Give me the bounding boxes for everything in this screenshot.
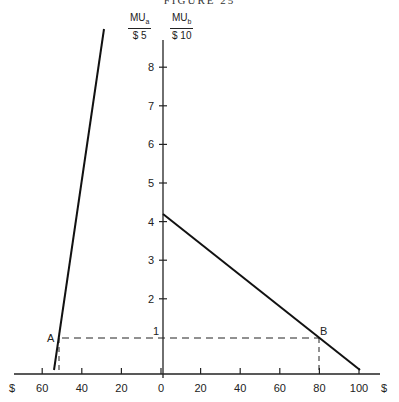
point-a-label: A (47, 332, 55, 344)
x-tick-label: 60 (274, 382, 286, 394)
point-b-label: B (320, 325, 327, 337)
y-tick-label: 2 (148, 293, 154, 305)
x-tick-label: 20 (115, 382, 127, 394)
x-tick-label: 40 (76, 382, 88, 394)
chart-plot: 12345678 604020020406080100 A B $ $ (0, 0, 399, 402)
y-tick-label: 6 (148, 138, 154, 150)
mu-a-line (54, 29, 104, 370)
x-currency-right: $ (381, 382, 387, 394)
x-tick-label: 80 (313, 382, 325, 394)
x-tick-label: 100 (350, 382, 368, 394)
x-currency-left: $ (9, 382, 15, 394)
y-tick-label: 5 (148, 177, 154, 189)
y-tick-label: 3 (148, 254, 154, 266)
x-tick-label: 60 (36, 382, 48, 394)
y-tick-label: 4 (148, 216, 154, 228)
x-ticks: 604020020406080100 (36, 368, 368, 394)
y-tick-label: 1 (153, 325, 159, 337)
y-tick-label: 8 (148, 61, 154, 73)
x-tick-label: 40 (234, 382, 246, 394)
x-tick-label: 0 (158, 382, 164, 394)
x-tick-label: 20 (194, 382, 206, 394)
y-ticks: 12345678 (148, 61, 167, 337)
y-tick-label: 7 (148, 100, 154, 112)
mu-b-line (163, 214, 360, 370)
